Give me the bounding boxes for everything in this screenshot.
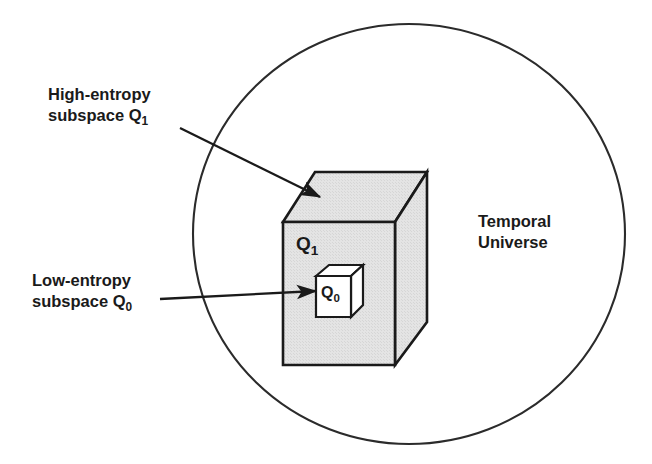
label-q0-subscript: 0	[333, 292, 339, 304]
label-q0: Q0	[321, 283, 340, 304]
label-high-entropy: High-entropy subspace Q1	[48, 84, 151, 127]
label-low-entropy-line2-text: subspace Q	[32, 292, 126, 310]
arrow-high-entropy	[180, 128, 320, 197]
diagram-canvas: High-entropy subspace Q1 Low-entropy sub…	[0, 0, 652, 464]
label-q1-subscript: 1	[311, 243, 319, 258]
label-high-entropy-line1: High-entropy	[48, 84, 151, 105]
diagram-svg	[0, 0, 652, 464]
label-low-entropy-line2: subspace Q0	[32, 291, 132, 312]
label-low-entropy-line1: Low-entropy	[32, 270, 132, 291]
label-high-entropy-line2-text: subspace Q	[48, 106, 142, 124]
label-low-entropy-subscript: 0	[126, 301, 133, 315]
label-temporal-universe: Temporal Universe	[478, 211, 551, 254]
label-high-entropy-subscript: 1	[142, 115, 149, 129]
label-temporal-universe-line2: Universe	[478, 232, 551, 253]
label-low-entropy: Low-entropy subspace Q0	[32, 270, 132, 313]
label-q0-text: Q	[321, 284, 333, 301]
label-q1-text: Q	[296, 233, 311, 254]
label-high-entropy-line2: subspace Q1	[48, 105, 151, 126]
label-temporal-universe-line1: Temporal	[478, 211, 551, 232]
label-q1: Q1	[296, 232, 318, 257]
